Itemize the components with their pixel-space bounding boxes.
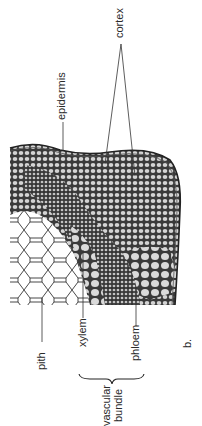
panel-label: b.	[182, 339, 193, 348]
label-epidermis: epidermis	[56, 72, 67, 120]
label-vascular-bundle-line2: bundle	[113, 389, 124, 422]
label-cortex: cortex	[114, 8, 125, 38]
label-phloem: phloem	[130, 325, 141, 361]
label-pith: pith	[36, 352, 47, 370]
label-xylem: xylem	[77, 318, 88, 347]
vascular-bundle-brace	[79, 374, 144, 384]
cortex-leader-line-1	[105, 44, 121, 164]
tissue-region	[0, 130, 202, 310]
label-vascular-bundle-line1: vascular	[101, 385, 112, 426]
